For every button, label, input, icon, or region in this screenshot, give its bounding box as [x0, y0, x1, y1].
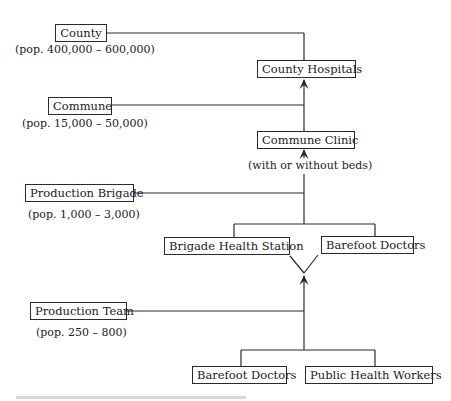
brigade-health-station-box: Brigade Health Station [164, 237, 290, 255]
commune-population: (pop. 15,000 – 50,000) [22, 117, 148, 131]
brigade-population: (pop. 1,000 – 3,000) [28, 208, 140, 222]
figure-caption-cropped [16, 396, 246, 399]
level-county-box: County [55, 24, 107, 42]
commune-clinic-box: Commune Clinic [257, 131, 355, 149]
county-population: (pop. 400,000 – 600,000) [15, 43, 155, 57]
brigade-barefoot-doctors-box: Barefoot Doctors [321, 236, 414, 254]
team-barefoot-doctors-box: Barefoot Doctors [192, 366, 287, 384]
level-commune-box: Commune [48, 97, 112, 115]
public-health-workers-box: Public Health Workers [305, 366, 433, 384]
level-brigade-box: Production Brigade [25, 184, 134, 202]
commune-clinic-note: (with or without beds) [248, 159, 372, 173]
level-team-box: Production Team [30, 302, 127, 320]
county-hospitals-box: County Hospitals [257, 60, 356, 78]
team-population: (pop. 250 – 800) [36, 326, 127, 340]
